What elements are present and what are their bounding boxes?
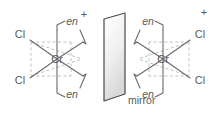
- left-ligand-label-en-lower: en: [66, 88, 78, 100]
- right-ligand-label-cl-upper: Cl: [195, 28, 205, 40]
- left-ligand-label-cl-upper: Cl: [15, 28, 25, 40]
- left-charge-label: +: [81, 8, 87, 20]
- mirror-plane-surface: [104, 13, 125, 101]
- figure-canvas: Cr Cl Cl en en + mirror: [0, 0, 220, 120]
- right-metal-label: Cr: [157, 53, 169, 65]
- enantiomer-mirror-figure: Cr Cl Cl en en + mirror: [0, 0, 220, 120]
- left-ligand-label-en-upper: en: [66, 15, 78, 27]
- right-ligand-label-en-upper: en: [142, 15, 154, 27]
- left-complex-group: Cr Cl Cl en en +: [15, 8, 87, 100]
- right-ligand-label-en-lower: en: [142, 88, 154, 100]
- right-complex-group: Cr en en Cl Cl +: [134, 6, 207, 100]
- right-charge-label: +: [201, 6, 207, 18]
- left-metal-label: Cr: [51, 53, 63, 65]
- left-ligand-label-cl-lower: Cl: [15, 74, 25, 86]
- right-ligand-label-cl-lower: Cl: [195, 74, 205, 86]
